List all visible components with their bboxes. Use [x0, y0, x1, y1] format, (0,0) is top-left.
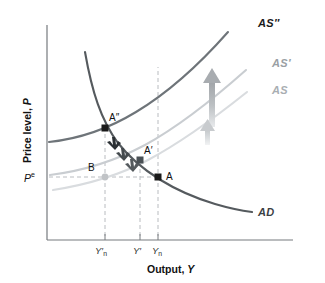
y-axis-title: Price level, P — [22, 98, 33, 163]
tick-label-yn: Yn — [152, 246, 162, 256]
price-expected-label: Pe — [24, 171, 35, 183]
marker-a-prime — [137, 157, 144, 164]
shift-arrow-upper — [203, 68, 221, 127]
as-prime-label: AS′ — [272, 58, 291, 69]
x-axis-ticks — [105, 234, 158, 240]
marker-a — [155, 174, 162, 181]
tick-label-yn-prime: Y′n — [95, 246, 107, 256]
price-expected-superscript: e — [31, 171, 35, 178]
tick-yn-sub: n — [158, 250, 162, 257]
point-b-label: B — [88, 163, 95, 173]
adjustment-arrows — [107, 137, 139, 172]
tick-label-y-prime: Y′ — [133, 246, 141, 256]
axis-lines — [47, 25, 293, 240]
point-a-label: A — [166, 172, 173, 182]
point-a-prime-label: A′ — [144, 146, 153, 156]
as-ad-diagram: AS″ AS′ AS AD A″ A′ A B Pe Y′n Y′ Yn Out… — [0, 0, 325, 283]
tick-yn-prime-text: Y′ — [95, 245, 103, 256]
y-axis-title-prefix: Price level, — [21, 105, 33, 163]
as-double-prime-label: AS″ — [258, 18, 279, 29]
tick-yn-prime-sub: n — [103, 250, 107, 257]
diagram-canvas — [0, 0, 325, 283]
point-a-double-prime-label: A″ — [109, 113, 119, 123]
marker-b — [102, 174, 109, 181]
x-axis-title: Output, Y — [147, 264, 194, 275]
x-axis-title-var: Y — [187, 263, 194, 275]
x-axis-title-prefix: Output, — [147, 263, 187, 275]
arrow-middle — [116, 148, 130, 161]
as-label: AS — [272, 85, 288, 96]
ad-label: AD — [258, 207, 275, 218]
y-axis-title-var: P — [21, 98, 33, 105]
price-expected-var: P — [24, 172, 31, 184]
marker-a-double-prime — [102, 125, 109, 132]
arrow-to-a-double-prime — [107, 137, 121, 150]
